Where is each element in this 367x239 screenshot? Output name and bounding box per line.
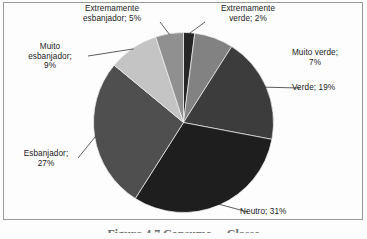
pie-chart (0, 0, 367, 239)
pie-slice-group (93, 33, 273, 213)
pie-label-extremamente-verde: Extremamente verde; 2% (196, 4, 300, 23)
figure-caption-text: Figura 4.7 Consumo ... Classe (107, 228, 259, 239)
pie-label-muito-esbanjador: Muito esbanjador; 9% (8, 42, 92, 71)
leader-line (160, 22, 170, 35)
pie-label-extremamente-esbanjador: Extremamente esbanjador; 5% (60, 4, 164, 23)
pie-chart-svg (0, 0, 367, 239)
figure-container: Extremamente esbanjador; 5% Extremamente… (0, 0, 367, 239)
figure-caption: Figura 4.7 Consumo ... Classe (0, 224, 367, 239)
leader-line (189, 22, 205, 34)
pie-label-verde: Verde; 19% (292, 83, 362, 93)
pie-label-esbanjador: Esbanjador; 27% (4, 149, 88, 168)
pie-label-neutro: Neutro; 31% (240, 207, 328, 217)
pie-label-muito-verde: Muito verde; 7% (272, 48, 358, 67)
